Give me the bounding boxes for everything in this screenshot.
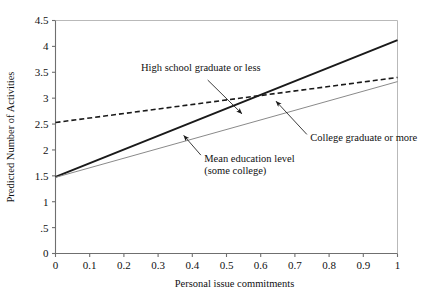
y-axis-tick-label: 3: [43, 92, 49, 104]
y-axis-tick-label: 4.5: [35, 14, 49, 26]
y-axis-tick-label: .5: [40, 222, 49, 234]
x-axis-tick-label: 0.3: [151, 259, 165, 271]
chart-figure: 0.511.522.533.544.500.10.20.30.40.50.60.…: [0, 0, 426, 302]
x-axis-tick-label: 0.7: [288, 259, 302, 271]
x-axis-tick-label: 0.4: [185, 259, 199, 271]
x-axis-tick-label: 0: [53, 259, 59, 271]
chart-annotation-label: College graduate or more: [310, 132, 417, 143]
x-axis-tick-label: 0.1: [83, 259, 97, 271]
y-axis-tick-label: 4: [43, 40, 49, 52]
x-axis-tick-label: 0.9: [356, 259, 370, 271]
y-axis-tick-label: 1.5: [35, 170, 49, 182]
chart-annotation-label: High school graduate or less: [141, 62, 261, 73]
y-axis-tick-label: 2: [43, 144, 49, 156]
line-chart: 0.511.522.533.544.500.10.20.30.40.50.60.…: [0, 0, 426, 302]
x-axis-title: Personal issue commitments: [175, 278, 295, 289]
x-axis-tick-label: 1: [395, 259, 401, 271]
x-axis-tick-label: 0.6: [254, 259, 268, 271]
y-axis-tick-label: 2.5: [35, 118, 49, 130]
chart-background: [0, 0, 426, 302]
y-axis-title: Predicted Number of Activities: [5, 72, 16, 203]
y-axis-tick-label: 1: [43, 196, 49, 208]
y-axis-tick-label: 3.5: [35, 66, 49, 78]
x-axis-tick-label: 0.8: [322, 259, 336, 271]
y-axis-tick-label: 0: [43, 247, 49, 259]
x-axis-tick-label: 0.2: [117, 259, 131, 271]
x-axis-tick-label: 0.5: [220, 259, 234, 271]
